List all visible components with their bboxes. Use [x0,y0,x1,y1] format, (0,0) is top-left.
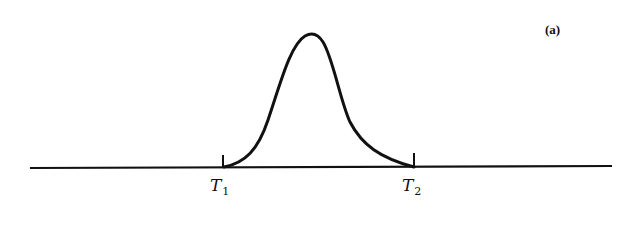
panel-label: (a) [545,22,560,37]
pulse-diagram: T1 T2 (a) [0,0,636,225]
t2-label: T2 [402,175,421,198]
pulse-curve [224,34,414,167]
time-axis [30,166,612,168]
t1-label: T1 [210,175,229,198]
